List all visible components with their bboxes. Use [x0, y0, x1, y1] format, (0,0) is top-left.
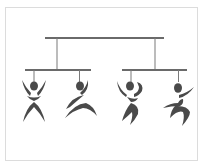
figure-arm-curl-icon	[117, 81, 142, 125]
figure-4-string	[178, 70, 179, 82]
right-drop-string	[155, 38, 156, 70]
lower-right-bar	[122, 69, 187, 71]
mobile-illustration	[0, 0, 204, 167]
figure-3-string	[131, 70, 132, 82]
lower-left-bar	[25, 69, 91, 71]
figure-2-string	[79, 70, 80, 82]
figure-1-string	[34, 70, 35, 82]
figure-running-icon	[163, 83, 194, 126]
figure-arms-up-icon	[22, 80, 46, 122]
figure-leaping-icon	[65, 80, 97, 118]
left-drop-string	[57, 38, 58, 70]
top-bar	[45, 37, 164, 39]
